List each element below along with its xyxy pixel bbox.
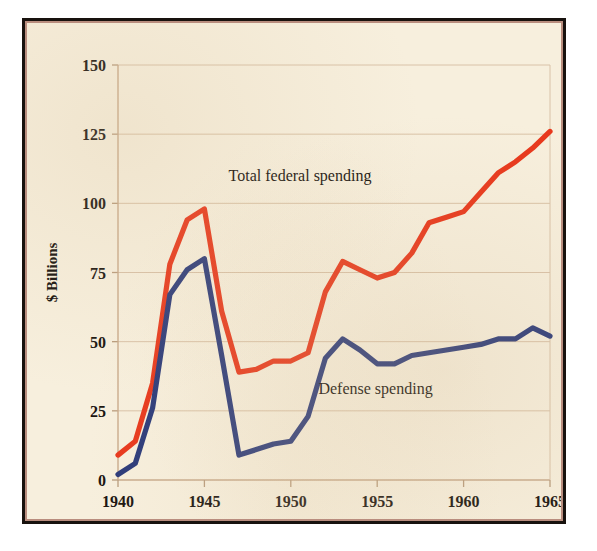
plot-area-wrapper: 0255075100125150 19401945195019551960196… bbox=[27, 23, 561, 519]
series-line-defense-spending bbox=[118, 259, 550, 475]
chart-paper-background: 0255075100125150 19401945195019551960196… bbox=[27, 23, 561, 519]
x-tick-label-1965: 1965 bbox=[534, 493, 561, 510]
series-label-total-federal-spending: Total federal spending bbox=[229, 167, 372, 185]
x-tick-label-1955: 1955 bbox=[361, 493, 393, 510]
y-tick-label-75: 75 bbox=[90, 265, 106, 282]
y-axis-tick-labels: 0255075100125150 bbox=[82, 57, 106, 489]
x-tick-label-1960: 1960 bbox=[448, 493, 480, 510]
line-chart: 0255075100125150 19401945195019551960196… bbox=[27, 23, 561, 519]
x-tick-label-1950: 1950 bbox=[275, 493, 307, 510]
y-axis-title: $ Billions bbox=[44, 243, 60, 303]
series-label-defense-spending: Defense spending bbox=[318, 380, 432, 398]
y-axis-title-group: $ Billions bbox=[44, 243, 60, 303]
y-tick-label-100: 100 bbox=[82, 195, 106, 212]
tickmarks-group bbox=[112, 65, 550, 487]
y-tick-label-0: 0 bbox=[98, 472, 106, 489]
chart-inner-rule: 0255075100125150 19401945195019551960196… bbox=[25, 21, 563, 521]
figure-canvas: 0255075100125150 19401945195019551960196… bbox=[0, 0, 597, 551]
y-tick-label-25: 25 bbox=[90, 403, 106, 420]
y-tick-label-150: 150 bbox=[82, 57, 106, 74]
x-tick-label-1945: 1945 bbox=[188, 493, 220, 510]
x-axis-tick-labels: 194019451950195519601965 bbox=[102, 493, 561, 510]
y-tick-label-50: 50 bbox=[90, 334, 106, 351]
x-tick-label-1940: 1940 bbox=[102, 493, 134, 510]
y-tick-label-125: 125 bbox=[82, 126, 106, 143]
chart-outer-frame: 0255075100125150 19401945195019551960196… bbox=[22, 18, 566, 524]
